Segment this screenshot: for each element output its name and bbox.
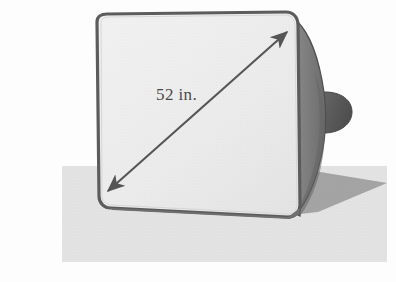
- diagonal-measurement-label: 52 in.: [156, 85, 197, 104]
- tv-diagram-svg: 52 in.: [0, 0, 396, 282]
- figure-container: 52 in.: [0, 0, 396, 282]
- screen-face: [97, 12, 300, 217]
